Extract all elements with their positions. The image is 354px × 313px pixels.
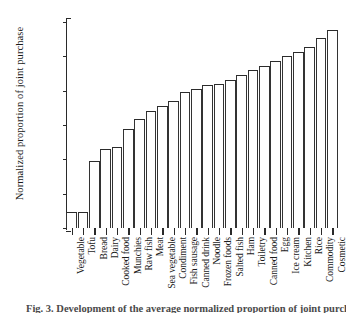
y-axis-tick [63,194,68,195]
x-axis-label-ice-cream: Ice cream [290,237,301,274]
y-axis-title: Normalized proportion of joint purchase [14,0,25,229]
x-axis-tick [310,228,311,235]
y-axis-cap [66,18,71,19]
y-axis-line [66,18,67,230]
x-axis-tick [242,228,243,235]
x-axis-tick [321,228,322,235]
x-axis-label-egg: Egg [279,237,290,252]
x-axis-label-sea-vegetable: Sea vegetable [166,237,177,289]
x-axis-tick-label: Rice [313,237,324,254]
x-axis-tick-label: Munchies [132,237,143,274]
bar [304,47,314,228]
x-axis-tick [208,228,209,235]
x-axis-label-noodle: Noodle [211,237,222,265]
x-axis-label-canned-food: Canned food [268,237,279,285]
bar [293,52,303,228]
x-axis-tick-label: Kitchen [302,237,313,267]
bar [327,30,337,228]
bar [134,119,144,228]
x-axis-tick [253,228,254,235]
x-axis-tick-label: Tofu [86,237,97,255]
x-axis-tick-label: Frozen foods [222,237,233,286]
x-axis-tick-label: Condiment [177,237,188,279]
x-axis-label-meat: Meat [154,237,165,256]
bar [168,101,178,228]
x-axis-tick [298,228,299,235]
chart-figure: Normalized proportion of joint purchase … [0,0,354,313]
bar [78,212,88,228]
x-axis-tick [219,228,220,235]
x-axis-tick-label: Bread [98,237,109,259]
bar [236,75,246,228]
x-axis-tick-label: Raw fish [143,237,154,271]
y-axis-tick [63,22,68,23]
bar [112,147,122,228]
bar [214,84,224,228]
bar [89,161,99,228]
x-axis-tick [106,228,107,235]
x-axis-tick-label: Commodity [324,237,335,282]
x-axis-tick [174,228,175,235]
x-axis-tick-label: Cosmetic [336,237,347,272]
x-axis-label-dairy: Dairy [109,237,120,258]
bar [123,129,133,228]
bar [157,106,167,228]
x-axis-label-cooked-food: Cooked food [120,237,131,286]
bar [180,92,190,228]
x-axis-tick [332,228,333,235]
bar [146,111,156,228]
x-axis-tick [128,228,129,235]
figure-caption: Fig. 3. Development of the average norma… [26,303,346,313]
x-axis-tick [196,228,197,235]
x-axis-label-kitchen: Kitchen [302,237,313,267]
x-axis-label-tofu: Tofu [86,237,97,255]
x-axis-tick [72,228,73,235]
x-axis-tick [162,228,163,235]
y-axis-tick [63,125,68,126]
x-axis-tick [117,228,118,235]
bar [191,89,201,228]
bar [282,56,292,228]
x-axis-label-bread: Bread [98,237,109,259]
y-axis-tick [63,159,68,160]
x-axis-tick [83,228,84,235]
x-axis-tick [230,228,231,235]
x-axis-label-frozen-foods: Frozen foods [222,237,233,286]
bar [270,61,280,228]
bar [225,80,235,228]
x-axis-tick-label: Noodle [211,237,222,265]
bar [316,38,326,228]
x-axis-tick [264,228,265,235]
x-axis-tick-label: Salted fish [234,237,245,277]
x-axis-label-rice: Rice [313,237,324,254]
x-axis-label-raw-fish: Raw fish [143,237,154,271]
x-axis-tick-label: Toiletry [256,237,267,266]
x-axis-label-commodity: Commodity [324,237,335,282]
x-axis-label-condiment: Condiment [177,237,188,279]
y-axis-tick [63,56,68,57]
x-axis-label-fish-sausage: Fish sausage [188,237,199,285]
x-axis-label-salted-fish: Salted fish [234,237,245,277]
plot-area: 05,00010,00015,00020,00025,00030,000 [66,22,338,228]
x-axis-tick-label: Meat [154,237,165,256]
x-axis-tick [287,228,288,235]
x-axis-label-ham: Ham [245,237,256,255]
x-axis-tick [151,228,152,235]
bar [66,212,76,228]
x-axis-tick-label: Ham [245,237,256,255]
x-axis-tick-label: Sea vegetable [166,237,177,289]
bar [248,70,258,228]
x-axis-tick-label: Fish sausage [188,237,199,285]
y-axis-tick [63,91,68,92]
x-axis-tick [276,228,277,235]
x-axis-tick [185,228,186,235]
x-axis-label-munchies: Munchies [132,237,143,274]
x-axis-tick-label: Canned drink [200,237,211,288]
x-axis: VegetableTofuBreadDairyCooked foodMunchi… [66,228,338,313]
x-axis-tick-label: Canned food [268,237,279,285]
x-axis-label-cosmetic: Cosmetic [336,237,347,272]
bar [259,66,269,228]
x-axis-tick-label: Dairy [109,237,120,258]
x-axis-tick [140,228,141,235]
x-axis-label-vegetable: Vegetable [75,237,86,274]
